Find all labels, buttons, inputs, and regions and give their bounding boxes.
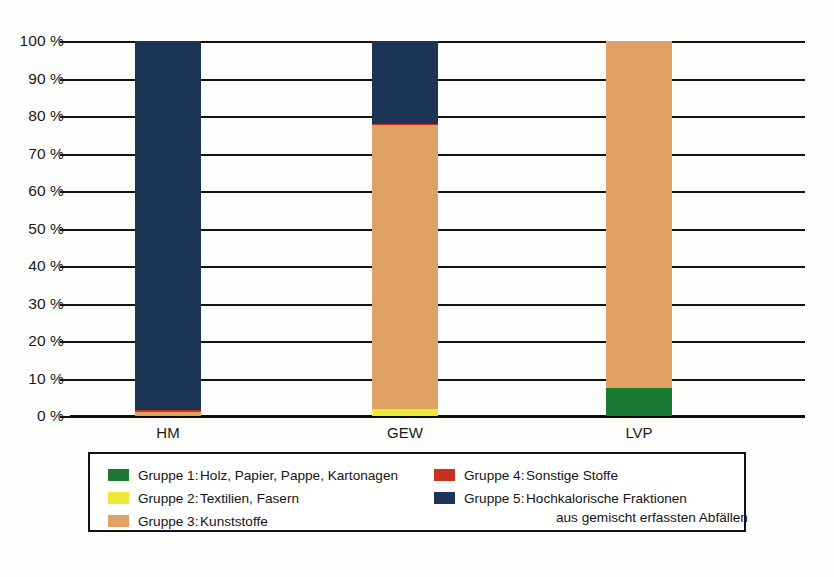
- legend-group-key: Gruppe 4:: [464, 466, 526, 485]
- legend-group-key: Gruppe 2:: [138, 489, 200, 508]
- legend-item[interactable]: Gruppe 3:Kunststoffe: [108, 511, 426, 531]
- stacked-bar-chart: 100 % 90 % 80 % 70 % 60 % 50 % 40 % 30 %…: [0, 0, 834, 450]
- chart-legend: Gruppe 1:Holz, Papier, Pappe, Kartonagen…: [88, 452, 746, 532]
- bar-segment: [372, 124, 438, 125]
- y-tick-label: 80 %: [28, 107, 64, 125]
- y-tick-label: 70 %: [28, 145, 64, 163]
- legend-swatch: [434, 469, 455, 481]
- legend-label: Gruppe 1:Holz, Papier, Pappe, Kartonagen: [138, 468, 398, 483]
- legend-label-wrap: Gruppe 1:Holz, Papier, Pappe, Kartonagen: [138, 465, 398, 485]
- bar-stack: [135, 41, 201, 416]
- legend-column-right: Gruppe 4:Sonstige StoffeGruppe 5:Hochkal…: [426, 465, 744, 530]
- bar-group-gew[interactable]: [372, 41, 438, 416]
- x-tick-label-hm: HM: [88, 424, 248, 441]
- legend-item[interactable]: Gruppe 4:Sonstige Stoffe: [434, 465, 744, 485]
- legend-item[interactable]: Gruppe 2:Textilien, Fasern: [108, 488, 426, 508]
- y-tick-label: 50 %: [28, 220, 64, 238]
- legend-group-key: Gruppe 3:: [138, 512, 200, 531]
- legend-label-wrap: Gruppe 5:Hochkalorische Fraktionenaus ge…: [464, 488, 748, 527]
- y-tick-label: 100 %: [20, 32, 64, 50]
- legend-label: Gruppe 5:Hochkalorische Fraktionen: [464, 491, 687, 506]
- legend-item[interactable]: Gruppe 5:Hochkalorische Fraktionenaus ge…: [434, 488, 744, 527]
- legend-group-key: Gruppe 1:: [138, 466, 200, 485]
- legend-group-desc: Hochkalorische Fraktionen: [526, 489, 687, 508]
- legend-swatch: [434, 492, 455, 504]
- legend-label: Gruppe 4:Sonstige Stoffe: [464, 468, 618, 483]
- legend-label-wrap: Gruppe 3:Kunststoffe: [138, 511, 268, 531]
- bar-segment: [372, 41, 438, 124]
- bar-segment: [372, 124, 438, 408]
- bar-group-lvp[interactable]: [606, 41, 672, 416]
- y-axis: 100 % 90 % 80 % 70 % 60 % 50 % 40 % 30 %…: [8, 41, 64, 416]
- legend-group-desc: Textilien, Fasern: [200, 489, 299, 508]
- legend-group-desc: Sonstige Stoffe: [526, 466, 618, 485]
- legend-label-wrap: Gruppe 4:Sonstige Stoffe: [464, 465, 618, 485]
- legend-label-subline: aus gemischt erfassten Abfällen: [556, 508, 748, 527]
- y-tick-label: 90 %: [28, 70, 64, 88]
- legend-swatch: [108, 492, 129, 504]
- y-tick-label: 30 %: [28, 295, 64, 313]
- legend-swatch: [108, 469, 129, 481]
- legend-group-desc: Holz, Papier, Pappe, Kartonagen: [200, 466, 398, 485]
- bar-segment: [606, 388, 672, 416]
- legend-label: Gruppe 2:Textilien, Fasern: [138, 491, 299, 506]
- bar-stack: [606, 41, 672, 416]
- x-tick-label-gew: GEW: [325, 424, 485, 441]
- y-tick-label: 10 %: [28, 370, 64, 388]
- bar-segment: [372, 409, 438, 417]
- bar-segment: [135, 41, 201, 410]
- y-tick-label: 60 %: [28, 182, 64, 200]
- x-tick-label-lvp: LVP: [559, 424, 719, 441]
- legend-group-key: Gruppe 5:: [464, 489, 526, 508]
- legend-item[interactable]: Gruppe 1:Holz, Papier, Pappe, Kartonagen: [108, 465, 426, 485]
- y-tick-label: 40 %: [28, 257, 64, 275]
- legend-columns: Gruppe 1:Holz, Papier, Pappe, Kartonagen…: [90, 454, 744, 530]
- bar-segment: [606, 41, 672, 388]
- legend-group-desc: Kunststoffe: [200, 512, 268, 531]
- bar-stack: [372, 41, 438, 416]
- plot-area: [70, 41, 805, 416]
- chart-screenshot: 100 % 90 % 80 % 70 % 60 % 50 % 40 % 30 %…: [0, 0, 834, 577]
- legend-label: Gruppe 3:Kunststoffe: [138, 514, 268, 529]
- bar-segment: [135, 412, 201, 417]
- bar-segment: [135, 410, 201, 412]
- legend-label-wrap: Gruppe 2:Textilien, Fasern: [138, 488, 299, 508]
- legend-column-left: Gruppe 1:Holz, Papier, Pappe, Kartonagen…: [90, 465, 426, 530]
- legend-swatch: [108, 515, 129, 527]
- bar-group-hm[interactable]: [135, 41, 201, 416]
- y-tick-label: 20 %: [28, 332, 64, 350]
